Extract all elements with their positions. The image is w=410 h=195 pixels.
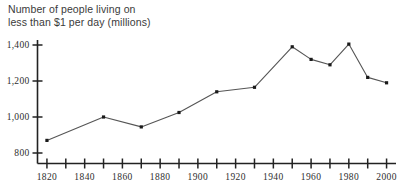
data-series-poverty xyxy=(45,43,388,143)
data-point-marker xyxy=(215,90,218,93)
x-axis-tick-label: 1880 xyxy=(150,172,171,182)
y-axis-tick-label: 1,200 xyxy=(7,76,30,86)
x-axis-tick-label: 1900 xyxy=(188,172,209,182)
y-axis: 8001,0001,2001,400 xyxy=(7,40,43,164)
data-point-marker xyxy=(347,43,350,46)
poverty-line-chart: Number of people living on less than $1 … xyxy=(0,0,410,195)
y-axis-tick-label: 800 xyxy=(14,148,29,158)
x-axis: 1820184018601880190019201940196019802000 xyxy=(37,159,397,182)
x-axis-tick-label: 2000 xyxy=(376,172,397,182)
chart-plot-area: 8001,0001,2001,400 182018401860188019001… xyxy=(0,0,410,195)
data-point-marker xyxy=(140,125,143,128)
x-axis-tick-label: 1940 xyxy=(263,172,284,182)
data-point-marker xyxy=(291,45,294,48)
x-axis-tick-label: 1920 xyxy=(225,172,246,182)
x-axis-tick-label: 1860 xyxy=(112,172,133,182)
data-point-marker xyxy=(45,139,48,142)
x-axis-tick-label: 1980 xyxy=(339,172,360,182)
data-point-marker xyxy=(309,58,312,61)
data-point-marker xyxy=(253,86,256,89)
x-axis-tick-label: 1840 xyxy=(74,172,95,182)
data-point-marker xyxy=(366,76,369,79)
data-point-marker xyxy=(328,63,331,66)
y-axis-tick-label: 1,400 xyxy=(7,40,30,50)
data-point-marker xyxy=(385,81,388,84)
y-axis-tick-label: 1,000 xyxy=(7,112,30,122)
x-axis-tick-label: 1960 xyxy=(301,172,322,182)
data-point-marker xyxy=(177,111,180,114)
data-point-marker xyxy=(102,115,105,118)
x-axis-tick-label: 1820 xyxy=(37,172,58,182)
